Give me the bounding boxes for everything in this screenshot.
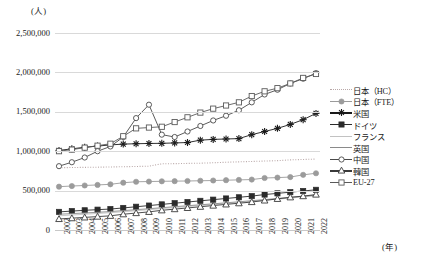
data-point-marker [171,139,178,146]
chart-legend: 日本（HC）日本（FTE）米国ドイツフランス英国中国韓国EU-27 [330,84,422,188]
data-point-marker [223,113,228,118]
data-point-marker [236,177,241,182]
data-point-marker [82,155,87,160]
y-axis-tick-label: 1,500,000 [2,106,50,116]
data-point-marker [56,164,61,169]
data-point-marker [274,125,281,132]
data-point-marker [121,134,126,139]
legend-label: 日本（FTE） [352,95,399,107]
legend-label: EU-27 [352,178,375,187]
data-point-marker [146,125,151,130]
legend-label: 中国 [352,153,369,165]
data-point-marker [249,100,254,105]
data-point-marker [133,140,140,147]
legend-item-hc[interactable]: 日本（HC） [330,84,422,96]
data-point-marker [235,135,242,142]
legend-marker-icon [336,107,347,118]
legend-item-de[interactable]: ドイツ [330,119,422,131]
data-point-marker [184,139,191,146]
gridline [55,33,320,34]
data-point-marker [338,180,343,185]
data-point-marker [82,145,87,150]
data-point-marker [95,143,100,148]
gridline [55,191,320,192]
data-point-marker [249,93,254,98]
legend-swatch-icon [330,119,352,130]
data-point-marker [159,179,164,184]
legend-item-eu[interactable]: EU-27 [330,177,422,189]
data-point-marker [134,126,139,131]
data-point-marker [121,180,126,185]
legend-item-cn[interactable]: 中国 [330,154,422,166]
legend-swatch-icon [330,131,352,142]
y-axis-tick-label: 0 [2,225,50,235]
legend-item-kr[interactable]: 韓国 [330,165,422,177]
data-point-marker [210,136,217,143]
data-point-marker [262,175,267,180]
data-point-marker [300,116,307,123]
data-point-marker [134,204,139,209]
data-point-marker [69,160,74,165]
legend-item-fte[interactable]: 日本（FTE） [330,96,422,108]
y-axis-tick-label: 1,000,000 [2,146,50,156]
legend-label: 日本（HC） [352,84,396,96]
axis-baseline [55,230,320,231]
data-point-marker [185,129,190,134]
data-point-marker [95,182,100,187]
data-point-marker [198,178,203,183]
series-line [59,159,316,168]
legend-swatch-icon [330,84,352,95]
legend-line [330,147,352,148]
plot-area [55,33,320,230]
data-point-marker [223,135,230,142]
legend-swatch-icon [330,154,352,165]
data-point-marker [95,207,100,212]
legend-swatch-icon [330,96,352,107]
data-point-marker [134,116,139,121]
data-point-marker [236,100,241,105]
legend-label: フランス [352,130,385,142]
data-point-marker [158,140,165,147]
legend-swatch-icon [330,142,352,153]
data-point-marker [172,119,177,124]
legend-item-us[interactable]: 米国 [330,107,422,119]
data-point-marker [185,178,190,183]
data-point-marker [301,172,306,177]
y-axis-unit-label: (人) [31,4,46,16]
data-point-marker [261,128,268,135]
data-point-marker [82,208,87,213]
legend-label: 米国 [352,107,369,119]
legend-marker-icon [336,119,347,130]
data-point-marker [185,115,190,120]
y-axis-tick-label: 2,500,000 [2,28,50,38]
data-point-marker [159,132,164,137]
data-point-marker [338,168,345,174]
legend-label: 英国 [352,142,369,154]
legend-item-fr[interactable]: フランス [330,130,422,142]
legend-swatch-icon [330,177,352,188]
data-point-marker [108,182,113,187]
data-point-marker [338,99,343,104]
data-point-marker [108,141,113,146]
legend-label: ドイツ [352,119,377,131]
legend-line [330,136,352,137]
data-point-marker [313,171,318,176]
legend-marker-icon [336,96,347,107]
data-point-marker [211,106,216,111]
data-point-marker [275,175,280,180]
legend-item-uk[interactable]: 英国 [330,142,422,154]
data-point-marker [249,177,254,182]
series-layer [55,33,320,230]
series-日本（HC） [59,159,316,168]
legend-swatch-icon [330,107,352,118]
gridline [55,72,320,73]
y-axis-tick-label: 2,000,000 [2,67,50,77]
data-point-marker [248,131,255,138]
data-point-marker [69,208,74,213]
data-point-marker [134,179,139,184]
data-point-marker [288,174,293,179]
gridline [55,112,320,113]
data-point-marker [56,184,61,189]
data-point-marker [211,178,216,183]
data-point-marker [56,209,61,214]
